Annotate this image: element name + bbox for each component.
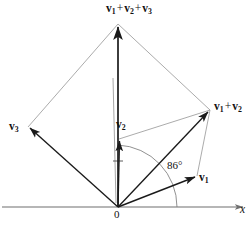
vector-diagram-figure: v1+v2+v3 v1+v2 v3 v2 v1 86° 0 x (0, 0, 252, 225)
label-vector-v2: v2 (116, 119, 126, 132)
label-sum-all-v2: v2 (124, 2, 134, 14)
label-sum-all-v1: v1 (106, 2, 116, 14)
vector-sum12-arrow (118, 112, 208, 207)
label-sum-v1-v2-v3: v1+v2+v3 (106, 3, 152, 16)
construction-edge-apex-to-sum12 (118, 24, 210, 110)
label-origin: 0 (114, 209, 120, 220)
label-vector-v1: v1 (199, 172, 209, 185)
label-sum-all-v3: v3 (142, 2, 152, 14)
construction-edge-v1-to-sum12 (197, 110, 210, 176)
label-sum-12-v2: v2 (232, 100, 242, 112)
vector-v3-arrow (30, 128, 118, 207)
label-angle-value: 86° (167, 160, 182, 171)
label-v3-glyph: v3 (9, 120, 19, 132)
label-v1-glyph: v1 (199, 171, 209, 183)
label-vector-v3: v3 (9, 121, 19, 134)
vector-v1-arrow (118, 177, 195, 207)
construction-edge-v3-to-apex (28, 24, 118, 127)
vertical-reference-line (113, 78, 116, 203)
label-v2-glyph: v2 (116, 118, 126, 130)
label-sum-12-v1: v1 (214, 100, 224, 112)
label-sum-v1-v2: v1+v2 (214, 101, 242, 114)
label-sum-all-op1: + (116, 2, 125, 14)
label-axis-x: x (240, 204, 245, 216)
label-sum-12-op: + (224, 100, 233, 112)
